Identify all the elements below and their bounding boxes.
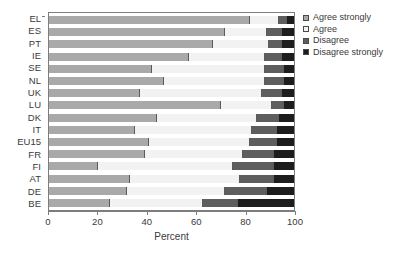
bar-row bbox=[49, 162, 294, 170]
bar-segment bbox=[243, 150, 275, 158]
bar-segment bbox=[272, 101, 284, 109]
bar-row bbox=[49, 89, 294, 97]
bar-segment bbox=[145, 150, 243, 158]
bar-segment bbox=[282, 89, 294, 97]
bar-segment bbox=[49, 40, 213, 48]
bar-segment bbox=[279, 114, 294, 122]
bar-segment bbox=[49, 175, 130, 183]
bar-segment bbox=[238, 199, 294, 207]
bar-segment bbox=[127, 187, 225, 195]
bar-segment bbox=[49, 199, 110, 207]
chart-figure: ELESPTIESENLUKLUDKITEU15FRFIATDEBE 02040… bbox=[0, 0, 409, 253]
bar-segment bbox=[157, 114, 257, 122]
bar-segment bbox=[130, 175, 240, 183]
legend-label: Disagree bbox=[313, 35, 349, 47]
x-axis-tick bbox=[246, 211, 247, 215]
y-axis-tick-label: EU15 bbox=[0, 138, 45, 146]
legend-swatch-icon bbox=[303, 49, 309, 55]
bar-segment bbox=[49, 53, 189, 61]
bar-segment bbox=[284, 101, 294, 109]
x-axis-tick bbox=[147, 211, 148, 215]
bar-segment bbox=[49, 28, 225, 36]
bar-row bbox=[49, 199, 294, 207]
legend-item: Agree bbox=[303, 24, 407, 36]
y-axis-tick-label: AT bbox=[0, 175, 45, 183]
legend-item: Agree strongly bbox=[303, 12, 407, 24]
bar-row bbox=[49, 53, 294, 61]
bar-segment bbox=[140, 89, 263, 97]
bar-row bbox=[49, 77, 294, 85]
y-axis-tick-label: FI bbox=[0, 163, 45, 171]
y-axis-tick-label: IE bbox=[0, 52, 45, 60]
y-axis-tick-label: PT bbox=[0, 40, 45, 48]
bar-segment bbox=[262, 89, 282, 97]
bar-segment bbox=[269, 40, 281, 48]
x-axis-tick bbox=[196, 211, 197, 215]
bar-segment bbox=[282, 28, 294, 36]
bar-segment bbox=[213, 40, 269, 48]
bar-segment bbox=[98, 162, 233, 170]
x-axis-tick-label: 20 bbox=[92, 216, 103, 227]
bar-segment bbox=[250, 16, 279, 24]
bar-segment bbox=[152, 65, 265, 73]
bar-row bbox=[49, 40, 294, 48]
bar-row bbox=[49, 65, 294, 73]
x-axis-tick-label: 100 bbox=[287, 216, 303, 227]
bar-segment bbox=[49, 65, 152, 73]
x-axis-tick-label: 0 bbox=[45, 216, 50, 227]
bar-segment bbox=[252, 126, 277, 134]
y-axis-tick-label: IT bbox=[0, 126, 45, 134]
legend-item: Disagree strongly bbox=[303, 47, 407, 59]
bar-row bbox=[49, 28, 294, 36]
y-axis-tick bbox=[42, 16, 45, 17]
bar-segment bbox=[284, 77, 294, 85]
bar-segment bbox=[49, 162, 98, 170]
bar-segment bbox=[49, 150, 145, 158]
bar-segment bbox=[49, 126, 135, 134]
bar-segment bbox=[49, 77, 164, 85]
bar-segment bbox=[49, 16, 250, 24]
bar-segment bbox=[267, 187, 294, 195]
bar-segment bbox=[265, 65, 285, 73]
x-axis-tick bbox=[48, 211, 49, 215]
y-axis-tick-label: SE bbox=[0, 64, 45, 72]
y-axis-tick-label: FR bbox=[0, 151, 45, 159]
bar-segment bbox=[267, 28, 282, 36]
bar-row bbox=[49, 114, 294, 122]
bar-segment bbox=[225, 28, 267, 36]
bar-segment bbox=[225, 187, 267, 195]
bar-segment bbox=[250, 138, 277, 146]
bar-row bbox=[49, 187, 294, 195]
legend-swatch-icon bbox=[303, 26, 309, 32]
bar-segment bbox=[135, 126, 253, 134]
bar-row bbox=[49, 175, 294, 183]
bar-segment bbox=[277, 138, 294, 146]
bar-segment bbox=[282, 40, 294, 48]
bar-segment bbox=[265, 53, 282, 61]
stacked-bars bbox=[49, 13, 294, 210]
bar-segment bbox=[274, 175, 294, 183]
y-axis-tick-label: LU bbox=[0, 101, 45, 109]
bar-segment bbox=[49, 187, 127, 195]
y-axis-tick-label: UK bbox=[0, 89, 45, 97]
bar-segment bbox=[284, 65, 294, 73]
bar-segment bbox=[240, 175, 274, 183]
bar-segment bbox=[49, 114, 157, 122]
x-axis-tick bbox=[97, 211, 98, 215]
x-axis-tick bbox=[295, 211, 296, 215]
bar-segment bbox=[49, 138, 149, 146]
bar-segment bbox=[233, 162, 275, 170]
y-axis-tick-label: BE bbox=[0, 200, 45, 208]
x-axis-tick-label: 60 bbox=[191, 216, 202, 227]
legend-label: Disagree strongly bbox=[313, 47, 383, 59]
x-axis-line bbox=[48, 211, 295, 212]
bar-segment bbox=[164, 77, 264, 85]
y-axis-tick-label: NL bbox=[0, 77, 45, 85]
bar-segment bbox=[203, 199, 237, 207]
bar-segment bbox=[49, 89, 140, 97]
bar-segment bbox=[282, 53, 294, 61]
bar-segment bbox=[265, 77, 285, 85]
y-axis-tick-label: EL bbox=[0, 15, 45, 23]
bar-segment bbox=[149, 138, 249, 146]
bar-segment bbox=[274, 150, 294, 158]
